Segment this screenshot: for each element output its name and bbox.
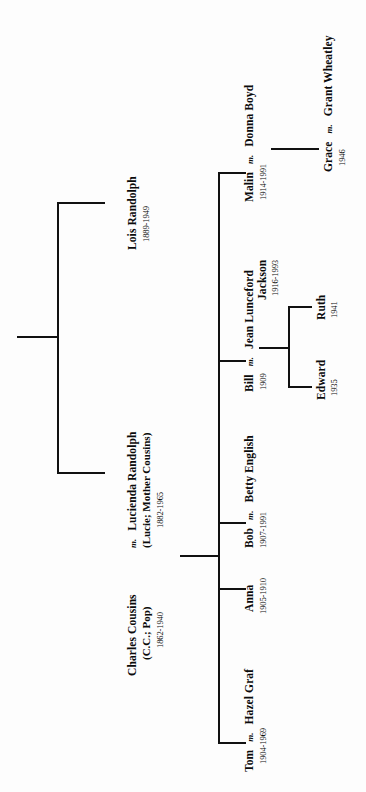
person-lucienda-randolph-dates: 1882-1965 — [150, 492, 166, 528]
person-dates: 1889-1949 — [141, 206, 151, 242]
marriage-symbol-bill-jean: m. — [245, 353, 255, 370]
person-bob-dates: 1907-1991 — [253, 512, 269, 548]
randolph-branch-lois — [57, 202, 105, 204]
randolph-sibling-spine — [57, 202, 59, 474]
person-charles-cousins-dates: 1862-1940 — [150, 612, 166, 648]
person-dates: 1907-1991 — [258, 512, 268, 548]
person-dates: 1935 — [329, 379, 339, 396]
person-dates: 1905-1910 — [258, 578, 268, 614]
person-dates: 1914-1991 — [258, 164, 268, 200]
cousins-parent-stem — [180, 555, 220, 557]
cousins-children-spine — [218, 172, 220, 744]
spouse-name: Betty English — [243, 435, 255, 502]
person-dates: 1904-1969 — [258, 728, 268, 764]
person-alias: (Lucie; Mother Cousins) — [140, 433, 152, 548]
person-malin-dates: 1914-1991 — [253, 164, 269, 200]
spouse-name: Donna Boyd — [243, 85, 255, 147]
person-anna-dates: 1905-1910 — [253, 578, 269, 614]
person-grace-dates: 1946 — [332, 149, 348, 166]
person-ruth-dates: 1941 — [324, 301, 340, 318]
bill-child-branch-ruth — [288, 306, 312, 308]
marriage-symbol-grace-grant: m. — [324, 120, 334, 137]
bill-parent-stem — [259, 347, 290, 349]
person-bill-dates: 1909 — [253, 373, 269, 390]
spouse-name: Hazel Graf — [243, 669, 255, 725]
randolph-parent-stem — [17, 336, 59, 338]
bill-child-branch-edward — [288, 386, 312, 388]
person-dates: 1862-1940 — [155, 612, 165, 648]
person-dates: 1909 — [258, 373, 268, 390]
spouse-jean-dates: 1916-1993 — [265, 260, 281, 296]
person-edward-dates: 1935 — [324, 379, 340, 396]
spouse-dates: 1916-1993 — [270, 260, 280, 296]
person-tom-dates: 1904-1969 — [253, 728, 269, 764]
person-dates: 1941 — [329, 301, 339, 318]
person-lois-randolph-dates: 1889-1949 — [136, 206, 152, 242]
family-tree-chart: Lois Randolph 1889-1949 m. Lucienda Rand… — [0, 0, 366, 792]
malin-child-stem-grace — [271, 148, 319, 150]
randolph-branch-lucienda — [57, 472, 105, 474]
person-dates: 1946 — [337, 149, 347, 166]
person-lucienda-randolph-alias: (Lucie; Mother Cousins) — [137, 433, 153, 548]
spouse-name: Grant Wheatley — [322, 35, 334, 116]
person-dates: 1882-1965 — [155, 492, 165, 528]
